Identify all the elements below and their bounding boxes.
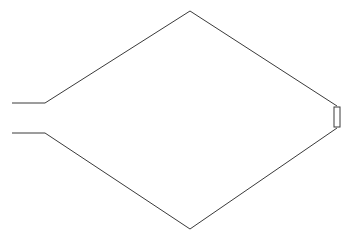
upper-outline-path <box>12 11 337 106</box>
lower-outline-path <box>12 128 337 229</box>
drawing-canvas <box>0 0 353 242</box>
line-drawing-figure <box>0 0 353 242</box>
right-tab-rect <box>334 107 340 127</box>
